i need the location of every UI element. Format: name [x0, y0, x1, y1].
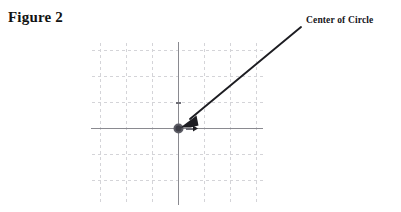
annotation-label: Center of Circle [306, 14, 373, 26]
center-point-marker [174, 124, 184, 134]
figure-screenshot: Figure 2 [0, 0, 401, 212]
coordinate-plane [0, 0, 401, 212]
annotation-arrow [181, 27, 302, 128]
plot-svg [0, 0, 401, 212]
